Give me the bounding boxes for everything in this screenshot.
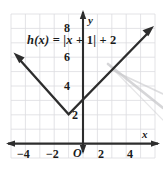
- equation-plus-one: + 1: [76, 33, 93, 47]
- x-tick-label-neg4: −4: [17, 148, 30, 160]
- x-tick-label-neg2: −2: [46, 148, 59, 160]
- y-tick-label-6: 6: [64, 51, 70, 63]
- y-tick-label-4: 4: [64, 80, 70, 92]
- y-axis-label: y: [88, 15, 93, 26]
- graph-figure: h(x) = |x + 1| + 2 8 6 4 2 −4 −2 2 4 O y…: [0, 0, 163, 171]
- y-tick-label-2: 2: [72, 109, 78, 121]
- equation-equals: =: [53, 33, 60, 47]
- x-tick-label-2: 2: [98, 148, 104, 160]
- equation-plus-two: + 2: [99, 33, 116, 47]
- function-equation-label: h(x) = |x + 1| + 2: [27, 33, 117, 48]
- origin-label: O: [73, 147, 82, 159]
- equation-abs-close: |: [93, 33, 96, 47]
- x-tick-label-4: 4: [127, 148, 133, 160]
- x-axis-label: x: [142, 129, 148, 140]
- equation-inside-variable: x: [66, 33, 72, 47]
- equation-argument: (x): [34, 33, 49, 47]
